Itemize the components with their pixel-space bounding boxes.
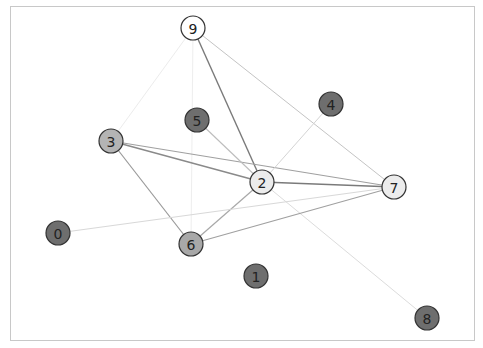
- node-6[interactable]: 6: [179, 232, 203, 256]
- node-label: 5: [193, 113, 202, 129]
- node-9[interactable]: 9: [181, 16, 205, 40]
- node-label: 2: [258, 175, 267, 191]
- node-5[interactable]: 5: [185, 108, 209, 132]
- node-label: 6: [187, 237, 196, 253]
- node-label: 0: [54, 226, 63, 242]
- node-label: 1: [252, 269, 261, 285]
- node-label: 8: [423, 311, 432, 327]
- node-1[interactable]: 1: [244, 264, 268, 288]
- node-8[interactable]: 8: [415, 306, 439, 330]
- node-label: 4: [327, 97, 336, 113]
- node-label: 3: [107, 134, 116, 150]
- node-label: 9: [189, 21, 198, 37]
- node-0[interactable]: 0: [46, 221, 70, 245]
- node-3[interactable]: 3: [99, 129, 123, 153]
- node-7[interactable]: 7: [382, 175, 406, 199]
- plot-frame: [11, 7, 475, 341]
- node-2[interactable]: 2: [250, 170, 274, 194]
- node-label: 7: [390, 180, 399, 196]
- network-graph: 0123456789: [0, 0, 483, 348]
- node-4[interactable]: 4: [319, 92, 343, 116]
